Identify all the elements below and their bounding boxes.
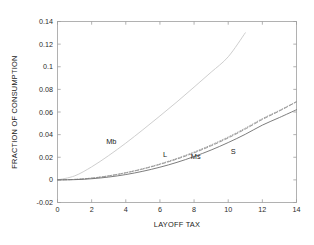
x-tick-label-4: 8 xyxy=(192,205,196,214)
x-tick-label-2: 4 xyxy=(124,205,128,214)
x-tick-label-1: 2 xyxy=(90,205,94,214)
y-tick-label-1: 0 xyxy=(49,175,53,184)
y-tick-label-4: 0.06 xyxy=(39,108,53,117)
x-axis-title: LAYOFF TAX xyxy=(154,220,200,229)
y-tick-label-3: 0.04 xyxy=(39,130,53,139)
x-tick-label-5: 10 xyxy=(224,205,232,214)
y-tick-label-5: 0.08 xyxy=(39,85,53,94)
chart-canvas: 02468101214 -0.0200.020.040.060.080.10.1… xyxy=(0,0,314,245)
x-tick-label-7: 14 xyxy=(293,205,301,214)
y-tick-label-8: 0.14 xyxy=(39,17,53,26)
curve-label-ms: Ms xyxy=(191,152,201,161)
curve-label-l: L xyxy=(163,150,167,159)
chart-figure: 02468101214 -0.0200.020.040.060.080.10.1… xyxy=(0,0,314,245)
curve-label-mb: Mb xyxy=(106,137,116,146)
x-tick-label-0: 0 xyxy=(56,205,60,214)
x-tick-label-3: 6 xyxy=(158,205,162,214)
y-tick-label-6: 0.1 xyxy=(43,62,53,71)
x-tick-label-6: 12 xyxy=(258,205,266,214)
y-tick-label-2: 0.02 xyxy=(39,153,53,162)
y-tick-label-0: -0.02 xyxy=(37,198,53,207)
y-axis-title: FRACTION OF CONSUMPTION xyxy=(10,55,19,168)
y-tick-label-7: 0.12 xyxy=(39,40,53,49)
curve-label-s: S xyxy=(231,147,236,156)
